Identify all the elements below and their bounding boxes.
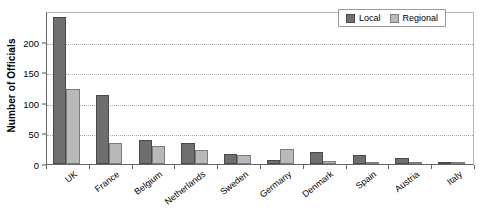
y-axis-tick-label: 50	[28, 129, 39, 140]
legend-entry: Local	[346, 13, 381, 23]
bar-group	[218, 13, 261, 164]
bar	[395, 158, 408, 164]
bar-group	[432, 13, 475, 164]
legend-entry: Regional	[390, 13, 439, 23]
chart-legend: LocalRegional	[338, 9, 446, 27]
x-axis-tick-label: Netherlands	[163, 169, 207, 207]
bar-group	[133, 13, 176, 164]
x-axis-tick-label: Sweden	[218, 169, 250, 197]
bars-layer	[47, 13, 473, 164]
bar-group	[261, 13, 304, 164]
x-axis-tick-label: Belgium	[133, 169, 165, 197]
bar	[353, 155, 366, 164]
bar	[53, 17, 66, 164]
bar	[224, 154, 237, 164]
bar	[451, 162, 464, 164]
y-axis-title-text: Number of Officials	[6, 38, 17, 132]
bar	[152, 146, 165, 164]
x-axis-tick-label: Spain	[354, 169, 378, 191]
bar	[438, 162, 451, 164]
legend-swatch-icon	[390, 14, 399, 23]
legend-swatch-icon	[346, 14, 355, 23]
x-axis-tick-label: France	[93, 169, 121, 194]
bar	[237, 155, 250, 164]
x-axis-tick-label: UK	[63, 169, 79, 185]
bar	[267, 160, 280, 164]
y-axis-tick-label: 150	[23, 68, 39, 79]
y-axis-tick-labels: 050100150200	[18, 0, 42, 175]
bar	[409, 162, 422, 164]
bar-group	[347, 13, 390, 164]
bar-group	[389, 13, 432, 164]
x-axis-tick-labels: UKFranceBelgiumNetherlandsSwedenGermanyD…	[46, 169, 474, 219]
bar-group	[304, 13, 347, 164]
x-axis-tick-label: Germany	[257, 169, 292, 200]
legend-label: Regional	[403, 13, 439, 23]
bar	[323, 161, 336, 164]
y-axis-tick-label: 100	[23, 98, 39, 109]
plot-area	[46, 12, 474, 165]
bar	[109, 143, 122, 164]
bar	[280, 149, 293, 164]
x-axis-tick-mark	[474, 165, 475, 169]
bar-group	[47, 13, 90, 164]
bar	[66, 89, 79, 164]
y-axis-tick-label: 200	[23, 37, 39, 48]
bar	[181, 143, 194, 164]
bar-group	[90, 13, 133, 164]
bar-group	[175, 13, 218, 164]
x-axis-tick-label: Denmark	[301, 169, 336, 199]
x-axis-tick-label: Italy	[445, 169, 464, 187]
bar	[96, 95, 109, 164]
bar	[310, 152, 323, 164]
bar	[139, 140, 152, 164]
x-axis-tick-label: Austria	[393, 169, 421, 194]
bar-chart: Number of Officials 050100150200 UKFranc…	[0, 0, 483, 220]
y-axis-tick-label: 0	[34, 160, 39, 171]
legend-label: Local	[359, 13, 381, 23]
bar	[366, 162, 379, 164]
bar	[195, 150, 208, 164]
